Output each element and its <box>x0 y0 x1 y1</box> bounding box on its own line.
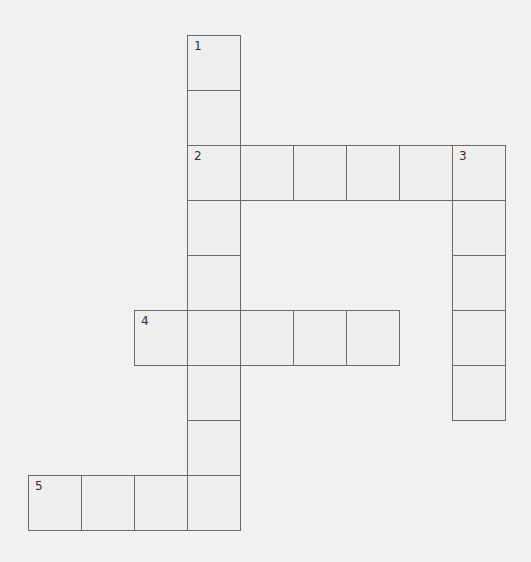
crossword-cell[interactable] <box>452 365 506 421</box>
crossword-cell[interactable] <box>293 145 347 201</box>
crossword-cell[interactable] <box>187 365 241 421</box>
crossword-cell[interactable]: 2 <box>187 145 241 201</box>
clue-number: 1 <box>194 39 202 53</box>
clue-number: 2 <box>194 149 202 163</box>
crossword-cell[interactable] <box>346 310 400 366</box>
clue-number: 5 <box>35 479 43 493</box>
crossword-cell[interactable] <box>240 310 294 366</box>
clue-number: 4 <box>141 314 149 328</box>
crossword-cell[interactable] <box>452 310 506 366</box>
crossword-cell[interactable] <box>293 310 347 366</box>
crossword-cell[interactable]: 1 <box>187 35 241 91</box>
crossword-cell[interactable] <box>187 90 241 146</box>
crossword-cell[interactable] <box>452 255 506 311</box>
crossword-cell[interactable]: 4 <box>134 310 188 366</box>
crossword-cell[interactable] <box>452 200 506 256</box>
crossword-grid: 12345 <box>0 0 531 562</box>
crossword-cell[interactable] <box>187 310 241 366</box>
crossword-cell[interactable] <box>187 200 241 256</box>
crossword-cell[interactable] <box>187 475 241 531</box>
crossword-cell[interactable] <box>187 255 241 311</box>
crossword-cell[interactable]: 5 <box>28 475 82 531</box>
clue-number: 3 <box>459 149 467 163</box>
crossword-cell[interactable] <box>399 145 453 201</box>
crossword-cell[interactable] <box>134 475 188 531</box>
crossword-cell[interactable]: 3 <box>452 145 506 201</box>
crossword-cell[interactable] <box>81 475 135 531</box>
crossword-cell[interactable] <box>240 145 294 201</box>
crossword-cell[interactable] <box>346 145 400 201</box>
crossword-cell[interactable] <box>187 420 241 476</box>
